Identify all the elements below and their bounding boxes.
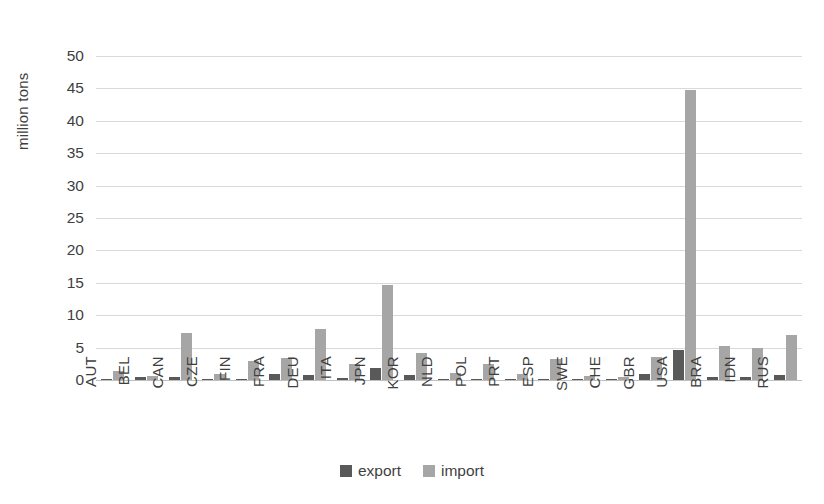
x-tick-label: CZE xyxy=(183,354,200,418)
y-axis-tick-labels: 50454035302520151050 xyxy=(22,56,84,380)
bar-export-nld[interactable] xyxy=(438,379,449,380)
x-tick-label: RUS xyxy=(754,354,771,418)
legend-item-import[interactable]: import xyxy=(423,462,484,480)
y-tick-40: 40 xyxy=(24,112,84,130)
y-tick-15: 15 xyxy=(24,274,84,292)
x-tick-label: BRA xyxy=(687,354,704,418)
bar-group-idn xyxy=(735,56,769,380)
plot-area xyxy=(96,56,802,380)
bar-export-idn[interactable] xyxy=(740,377,751,380)
bar-group-usa xyxy=(668,56,702,380)
y-tick-10: 10 xyxy=(24,306,84,324)
bar-group-jpn xyxy=(365,56,399,380)
y-tick-45: 45 xyxy=(24,79,84,97)
bar-group-cze xyxy=(197,56,231,380)
x-tick-label: SWE xyxy=(553,354,570,418)
y-tick-30: 30 xyxy=(24,177,84,195)
bar-group-kor xyxy=(399,56,433,380)
bar-group-gbr xyxy=(634,56,668,380)
legend-label: export xyxy=(358,462,401,480)
x-tick-label: AUT xyxy=(82,354,99,418)
bar-group-swe xyxy=(567,56,601,380)
bar-group-rus xyxy=(769,56,803,380)
bar-export-swe[interactable] xyxy=(572,379,583,380)
bar-export-bel[interactable] xyxy=(135,377,146,380)
bar-export-cze[interactable] xyxy=(202,379,213,380)
bar-export-prt[interactable] xyxy=(505,379,516,380)
bar-import-usa[interactable] xyxy=(685,90,696,380)
bar-export-pol[interactable] xyxy=(471,379,482,380)
bar-group-pol xyxy=(466,56,500,380)
bar-export-gbr[interactable] xyxy=(639,374,650,380)
bar-group-fin xyxy=(231,56,265,380)
x-tick-label: BEL xyxy=(115,354,132,418)
bar-export-fin[interactable] xyxy=(236,379,247,380)
bar-groups xyxy=(96,56,802,380)
x-tick-label: FIN xyxy=(216,354,233,418)
import-swatch xyxy=(423,465,435,477)
x-tick-label: JPN xyxy=(351,354,368,418)
bar-group-esp xyxy=(533,56,567,380)
bar-export-ita[interactable] xyxy=(337,378,348,380)
x-axis-tick-labels: AUTBELCANCZEFINFRADEUITAJPNKORNLDPOLPRTE… xyxy=(96,382,802,452)
bar-chart: million tons 50454035302520151050 AUTBEL… xyxy=(0,0,824,504)
bar-group-fra xyxy=(264,56,298,380)
y-tick-25: 25 xyxy=(24,209,84,227)
bar-export-fra[interactable] xyxy=(269,374,280,380)
x-tick-label: ITA xyxy=(317,354,334,418)
y-tick-50: 50 xyxy=(24,47,84,65)
bar-group-bra xyxy=(701,56,735,380)
x-tick-label: ESP xyxy=(519,354,536,418)
bar-export-can[interactable] xyxy=(169,377,180,380)
bar-import-rus[interactable] xyxy=(786,335,797,380)
x-tick-label: GBR xyxy=(620,354,637,418)
bar-export-usa[interactable] xyxy=(673,350,684,380)
bar-export-bra[interactable] xyxy=(707,377,718,380)
bar-group-ita xyxy=(331,56,365,380)
x-tick-label: IDN xyxy=(721,354,738,418)
y-tick-35: 35 xyxy=(24,144,84,162)
bar-group-prt xyxy=(500,56,534,380)
export-swatch xyxy=(340,465,352,477)
y-tick-20: 20 xyxy=(24,241,84,259)
bar-export-rus[interactable] xyxy=(774,375,785,380)
x-tick-label: CAN xyxy=(149,354,166,418)
bar-group-che xyxy=(600,56,634,380)
legend-item-export[interactable]: export xyxy=(340,462,401,480)
x-tick-label: DEU xyxy=(284,354,301,418)
x-tick-label: USA xyxy=(653,354,670,418)
x-tick-label: FRA xyxy=(250,354,267,418)
legend-label: import xyxy=(441,462,484,480)
bar-export-esp[interactable] xyxy=(538,379,549,380)
y-tick-0: 0 xyxy=(24,371,84,389)
bar-export-jpn[interactable] xyxy=(370,368,381,380)
bar-export-deu[interactable] xyxy=(303,375,314,380)
bar-group-deu xyxy=(298,56,332,380)
bar-export-aut[interactable] xyxy=(101,379,112,380)
chart-legend: exportimport xyxy=(0,462,824,480)
x-tick-label: PRT xyxy=(485,354,502,418)
x-tick-label: KOR xyxy=(384,354,401,418)
bar-group-bel xyxy=(130,56,164,380)
bar-group-aut xyxy=(96,56,130,380)
bar-export-kor[interactable] xyxy=(404,375,415,380)
bar-export-che[interactable] xyxy=(606,379,617,380)
bar-group-nld xyxy=(432,56,466,380)
y-tick-5: 5 xyxy=(24,339,84,357)
x-tick-rus: RUS xyxy=(769,382,803,452)
x-tick-label: NLD xyxy=(418,354,435,418)
x-tick-label: POL xyxy=(452,354,469,418)
bar-group-can xyxy=(163,56,197,380)
x-tick-label: CHE xyxy=(586,354,603,418)
